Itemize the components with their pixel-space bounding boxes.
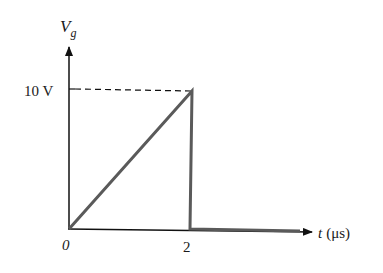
y-level-label: 10 V xyxy=(24,83,53,99)
x-tick-0: 0 xyxy=(62,237,70,253)
x-tick-2: 2 xyxy=(183,239,191,255)
signal-trace xyxy=(69,91,300,231)
dashed-reference-line xyxy=(75,89,192,91)
y-axis-label: Vg xyxy=(60,17,76,40)
waveform-diagram: Vg 10 V 0 2 t(μs) xyxy=(0,0,383,273)
x-axis-label: t(μs) xyxy=(318,225,350,242)
